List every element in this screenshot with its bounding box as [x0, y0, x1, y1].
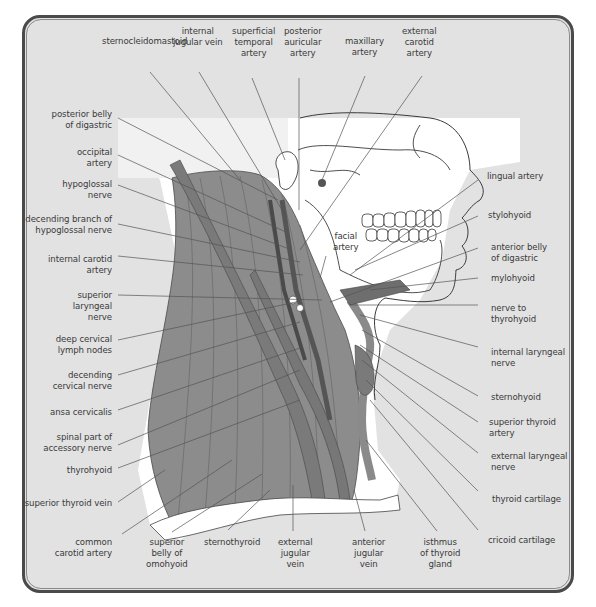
label-isthmus-of-thyroid-gland: isthmus of thyroid gland	[420, 537, 460, 570]
label-superior-laryngeal-nerve: superior laryngeal nerve	[73, 290, 112, 323]
label-superior-thyroid-vein: superior thyroid vein	[25, 498, 112, 509]
label-external-jugular-vein: external jugular vein	[278, 537, 313, 570]
label-superior-thyroid-artery: superior thyroid artery	[489, 417, 556, 439]
label-decending-branch-of-hypoglossal-nerve: decending branch of hypoglossal nerve	[25, 214, 112, 236]
label-anterior-belly-of-digastric: anterior belly of digastric	[491, 242, 547, 264]
label-hypoglossal-nerve: hypoglossal nerve	[62, 179, 112, 201]
label-thyroid-cartilage: thyroid cartilage	[492, 494, 561, 505]
label-posterior-auricular-artery: posterior auricular artery	[284, 26, 322, 59]
label-thyrohyoid: thyrohyoid	[67, 465, 112, 476]
label-internal-laryngeal-nerve: internal laryngeal nerve	[491, 347, 565, 369]
label-occipital-artery: occipital artery	[77, 147, 112, 169]
label-internal-jugular-vein: internal jugular vein	[173, 26, 223, 48]
label-external-carotid-artery: external carotid artery	[402, 26, 437, 59]
lymph-node	[297, 305, 304, 312]
label-nerve-to-thyrohyoid: nerve to thyrohyoid	[491, 303, 536, 325]
label-decending-cervical-nerve: decending cervical nerve	[53, 370, 112, 392]
label-maxillary-artery: maxillary artery	[345, 36, 384, 58]
label-stylohyoid: stylohyoid	[488, 210, 531, 221]
label-facial-artery: facial artery	[333, 231, 358, 253]
label-spinal-part-of-accessory-nerve: spinal part of accessory nerve	[43, 432, 112, 454]
label-mylohyoid: mylohyoid	[491, 273, 535, 284]
label-ansa-cervicalis: ansa cervicalis	[50, 407, 112, 418]
label-common-carotid-artery: common carotid artery	[55, 537, 112, 559]
label-superior-belly-of-omohyoid: superior belly of omohyoid	[146, 537, 188, 570]
label-posterior-belly-of-digastric: posterior belly of digastric	[52, 109, 112, 131]
label-internal-carotid-artery: internal carotid artery	[48, 254, 112, 276]
label-deep-cervical-lymph-nodes: deep cervical lymph nodes	[56, 334, 112, 356]
label-sternohyoid: sternohyoid	[491, 392, 541, 403]
label-superficial-temporal-artery: superficial temporal artery	[232, 26, 275, 59]
label-sternothyroid: sternothyroid	[204, 537, 260, 548]
maxillary-artery-marker	[318, 179, 326, 187]
label-external-laryngeal-nerve: external laryngeal nerve	[491, 451, 567, 473]
label-lingual-artery: lingual artery	[487, 171, 543, 182]
label-anterior-jugular-vein: anterior jugular vein	[352, 537, 385, 570]
label-cricoid-cartilage: cricoid cartilage	[488, 535, 555, 546]
